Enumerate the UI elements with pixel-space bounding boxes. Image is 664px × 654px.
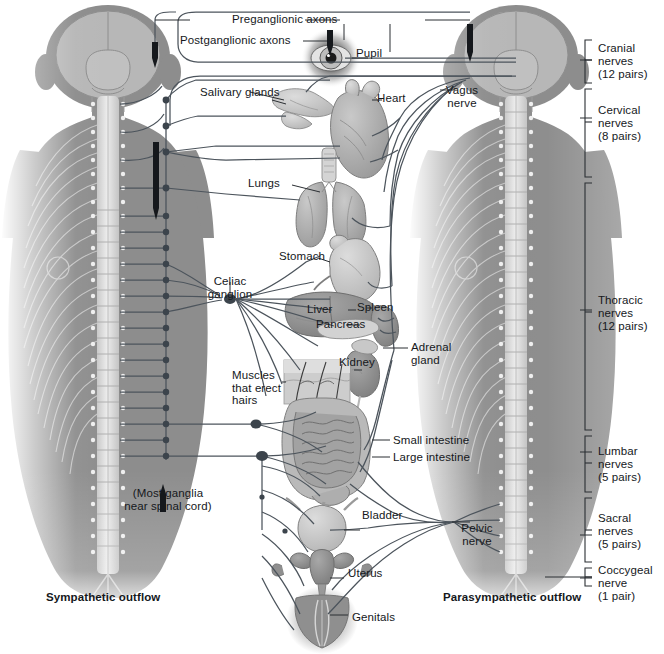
organ-label-liver: Liver [307,303,332,316]
segment-label-thoracic-line2: nerves [598,307,633,320]
legend-preganglionic-label: Preganglionic axons [232,13,337,26]
note-most-ganglia: (Most ganglia near spinal cord) [114,487,222,512]
organ-label-genitals: Genitals [352,611,395,624]
segment-label-cervical-name: Cervical [598,104,640,117]
title-parasympathetic-outflow: Parasympathetic outflow [443,591,581,604]
organ-label-erector-muscles: Muscles that erect hairs [232,369,288,407]
organ-label-spleen: Spleen [357,301,393,314]
segment-label-lumbar-name: Lumbar [598,445,638,458]
organ-label-kidney: Kidney [339,356,375,369]
organ-label-adrenal-gland: Adrenal gland [411,341,463,366]
organ-label-stomach: Stomach [279,250,325,263]
left-body-figure [0,5,216,610]
organ-label-small-intestine: Small intestine [393,434,469,447]
nerve-label-vagus: Vagus nerve [439,84,485,109]
segment-label-lumbar-line2: nerves [598,458,633,471]
title-sympathetic-outflow: Sympathetic outflow [46,591,160,604]
segment-label-sacral-line2: nerves [598,525,633,538]
segment-label-sacral-name: Sacral [598,512,631,525]
segment-label-lumbar-count: (5 pairs) [598,471,641,484]
organ-illustrations [272,28,399,654]
segment-label-cervical-count: (8 pairs) [598,130,641,143]
legend-postganglionic-label: Postganglionic axons [180,34,291,47]
segment-label-thoracic-count: (12 pairs) [598,320,648,333]
nerve-label-pelvic: Pelvic nerve [453,522,501,547]
segment-label-cranial-name: Cranial [598,42,635,55]
segment-label-coccygeal-line2: nerve [598,577,627,590]
ganglion-label-celiac: Celiac ganglion [197,275,263,300]
organ-label-uterus: Uterus [348,567,382,580]
segment-label-sacral-count: (5 pairs) [598,538,641,551]
organ-label-pancreas: Pancreas [316,318,365,331]
segment-label-thoracic-name: Thoracic [598,294,643,307]
organ-label-pupil: Pupil [356,47,382,60]
segment-label-coccygeal-count: (1 pair) [598,590,635,603]
segment-label-cranial-line2: nerves [598,55,633,68]
organ-label-lungs: Lungs [248,177,280,190]
segment-label-coccygeal-name: Coccygeal [598,564,653,577]
autonomic-nervous-system-diagram: Preganglionic axons Postganglionic axons… [0,0,664,654]
organ-label-heart: Heart [377,92,406,105]
organ-label-large-intestine: Large intestine [393,451,470,464]
genitals-illustration [286,586,358,654]
salivary-glands-illustration [272,89,336,129]
segment-label-cranial-count: (12 pairs) [598,68,648,81]
segment-label-cervical-line2: nerves [598,117,633,130]
organ-label-bladder: Bladder [362,509,402,522]
organ-label-salivary-glands: Salivary glands [200,86,279,99]
